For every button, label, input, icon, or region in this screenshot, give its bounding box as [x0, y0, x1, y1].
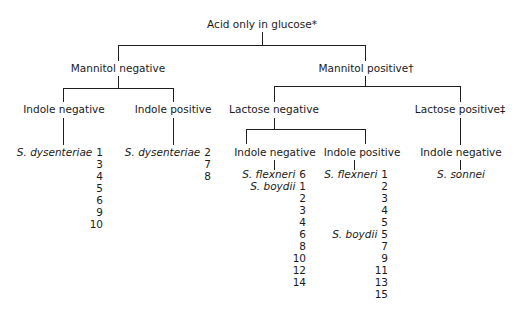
serotype-number: 2	[204, 146, 211, 158]
connector-ln-indole-pos	[365, 129, 366, 144]
node-root: Acid only in glucose*	[207, 18, 317, 30]
leaf-row: S. boydii1	[242, 180, 306, 192]
connector-mannitol-neg	[118, 45, 119, 61]
node-lactose-negative: Lactose negative	[229, 103, 319, 115]
leaf-row: 5	[17, 182, 103, 194]
connector-lp-indole	[460, 118, 461, 145]
serotype-number: 9	[381, 252, 388, 264]
leaf-row: 3	[242, 204, 306, 216]
leaf-row: 11	[324, 264, 388, 276]
leaf-row: 5	[324, 216, 388, 228]
species-name: S. flexneri	[242, 168, 295, 180]
leaf-row: 7	[125, 158, 211, 170]
serotype-number: 11	[375, 264, 388, 276]
serotype-number: 1	[96, 146, 103, 158]
serotype-number: 12	[293, 264, 306, 276]
leaf-row: 3	[324, 192, 388, 204]
connector-lactose-neg	[274, 86, 275, 102]
connector-ln-down	[274, 118, 275, 129]
leaf-row: 10	[242, 252, 306, 264]
node-ln-indole-negative: Indole negative	[234, 146, 315, 158]
serotype-number: 6	[299, 168, 306, 180]
species-name: S. dysenteriae	[125, 146, 201, 158]
node-lactose-positive: Lactose positive‡	[415, 103, 505, 115]
leaf-row: 13	[324, 276, 388, 288]
leaf-row: 4	[324, 204, 388, 216]
branch-root	[118, 45, 366, 46]
leaf-row: S. dysenteriae2	[125, 146, 211, 158]
connector-lactose-pos	[460, 86, 461, 102]
node-ln-indole-positive: Indole positive	[324, 146, 401, 158]
node-mn-indole-positive: Indole positive	[135, 103, 212, 115]
connector-mn-indole-neg-leaf	[63, 118, 64, 145]
serotype-number: 15	[375, 288, 388, 300]
leaf-row: S. boydii5	[324, 228, 388, 240]
leaf-row: 2	[324, 180, 388, 192]
leaf-row: 12	[242, 264, 306, 276]
species-name: S. dysenteriae	[17, 146, 93, 158]
leaf-list-mn-indole-neg: S. dysenteriae13456910	[17, 146, 103, 230]
leaf-list-mn-indole-pos: S. dysenteriae278	[125, 146, 211, 182]
serotype-number: 4	[381, 204, 388, 216]
serotype-number: 8	[204, 170, 211, 182]
serotype-number: 6	[299, 228, 306, 240]
serotype-number: 6	[96, 194, 103, 206]
connector-mn-indole-pos-leaf	[173, 118, 174, 145]
node-mn-indole-negative: Indole negative	[23, 103, 104, 115]
leaf-s-sonnei: S. sonnei	[437, 168, 485, 180]
connector-mn-down	[118, 76, 119, 88]
leaf-row: 8	[242, 240, 306, 252]
serotype-number: 5	[381, 228, 388, 240]
leaf-row: 10	[17, 218, 103, 230]
serotype-number: 7	[204, 158, 211, 170]
leaf-row: 15	[324, 288, 388, 300]
connector-mn-indole-neg	[63, 88, 64, 102]
serotype-number: 10	[293, 252, 306, 264]
serotype-number: 8	[299, 240, 306, 252]
serotype-number: 7	[381, 240, 388, 252]
serotype-number: 4	[299, 216, 306, 228]
connector-mannitol-pos	[365, 45, 366, 61]
species-name: S. boydii	[250, 180, 295, 192]
branch-mannitol-pos	[274, 86, 461, 87]
leaf-row: 3	[17, 158, 103, 170]
leaf-row: 4	[242, 216, 306, 228]
serotype-number: 9	[96, 206, 103, 218]
serotype-number: 4	[96, 170, 103, 182]
node-lp-indole-negative: Indole negative	[420, 146, 501, 158]
species-name: S. boydii	[332, 228, 377, 240]
leaf-list-ln-indole-pos: S. flexneri12345S. boydii579111315	[324, 168, 388, 300]
leaf-row: 4	[17, 170, 103, 182]
leaf-list-ln-indole-neg: S. flexneri6S. boydii123468101214	[242, 168, 306, 288]
leaf-row: S. dysenteriae1	[17, 146, 103, 158]
serotype-number: 13	[375, 276, 388, 288]
serotype-number: 3	[299, 204, 306, 216]
leaf-row: S. flexneri6	[242, 168, 306, 180]
connector-ln-indole-neg	[246, 129, 247, 144]
leaf-row: 6	[242, 228, 306, 240]
branch-lactose-neg	[246, 129, 366, 130]
serotype-number: 3	[96, 158, 103, 170]
serotype-number: 2	[299, 192, 306, 204]
serotype-number: 5	[381, 216, 388, 228]
serotype-number: 1	[299, 180, 306, 192]
connector-mn-indole-pos	[173, 88, 174, 102]
leaf-row: 2	[242, 192, 306, 204]
leaf-row: S. flexneri1	[324, 168, 388, 180]
leaf-row: 14	[242, 276, 306, 288]
node-mannitol-negative: Mannitol negative	[71, 62, 165, 74]
serotype-number: 2	[381, 180, 388, 192]
connector-root	[262, 32, 263, 45]
leaf-row: 6	[17, 194, 103, 206]
leaf-row: 9	[324, 252, 388, 264]
leaf-row: 8	[125, 170, 211, 182]
serotype-number: 14	[293, 276, 306, 288]
serotype-number: 10	[90, 218, 103, 230]
leaf-row: 9	[17, 206, 103, 218]
serotype-number: 1	[381, 168, 388, 180]
node-mannitol-positive: Mannitol positive†	[319, 62, 414, 74]
serotype-number: 3	[381, 192, 388, 204]
serotype-number: 5	[96, 182, 103, 194]
species-name: S. flexneri	[324, 168, 377, 180]
leaf-row: 7	[324, 240, 388, 252]
